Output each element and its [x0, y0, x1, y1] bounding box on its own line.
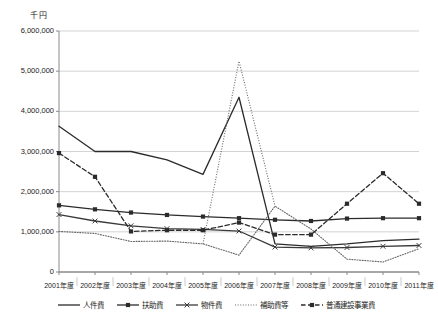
legend-swatch-solid-icon [117, 300, 139, 310]
legend-label: 物件費 [201, 299, 222, 310]
x-tick-label: 2010年度 [364, 280, 402, 290]
legend-label: 人件費 [83, 299, 104, 310]
chart-legend: 人件費扶助費物件費補助費等普通建設事業費 [0, 299, 432, 310]
x-tick-label: 2003年度 [112, 280, 150, 290]
y-tick-label: 4,000,000 [0, 106, 54, 115]
legend-label: 扶助費 [142, 299, 163, 310]
legend-item-5[interactable]: 普通建設事業費 [301, 299, 375, 310]
legend-item-3[interactable]: 物件費 [176, 299, 222, 310]
series-4 [59, 206, 419, 262]
legend-label: 補助費等 [260, 299, 288, 310]
y-tick-label: 1,000,000 [0, 227, 54, 236]
legend-item-2[interactable]: 扶助費 [117, 299, 163, 310]
y-tick-label: 5,000,000 [0, 66, 54, 75]
x-tick-label: 2008年度 [292, 280, 330, 290]
series-2 [57, 203, 421, 223]
x-tick-label: 2011年度 [400, 280, 438, 290]
legend-item-1[interactable]: 人件費 [58, 299, 104, 310]
legend-swatch-solid-icon [58, 300, 80, 310]
x-tick-label: 2006年度 [220, 280, 258, 290]
x-tick-label: 2005年度 [184, 280, 222, 290]
y-tick-label: 0 [0, 267, 54, 276]
x-tick-label: 2002年度 [76, 280, 114, 290]
x-tick-label: 2001年度 [40, 280, 78, 290]
x-tick-label: 2004年度 [148, 280, 186, 290]
y-tick-label: 6,000,000 [0, 26, 54, 35]
legend-swatch-dashed-icon [301, 300, 323, 310]
legend-label: 普通建設事業費 [326, 299, 375, 310]
legend-item-4[interactable]: 補助費等 [235, 299, 288, 310]
y-tick-label: 2,000,000 [0, 187, 54, 196]
series-5 [57, 151, 421, 237]
legend-swatch-dotted-icon [235, 300, 257, 310]
legend-swatch-solid-icon [176, 300, 198, 310]
x-tick-label: 2007年度 [256, 280, 294, 290]
y-tick-label: 3,000,000 [0, 147, 54, 156]
x-tick-label: 2009年度 [328, 280, 366, 290]
